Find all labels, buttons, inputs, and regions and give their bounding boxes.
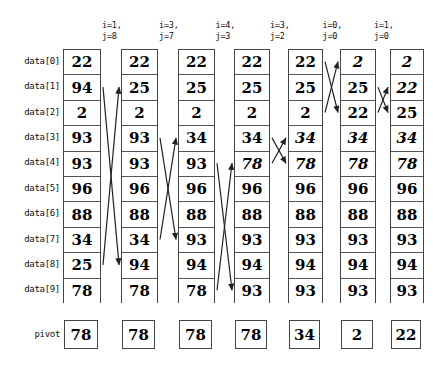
array-cell: 93 [289, 228, 322, 253]
step-header-2: i=3,j=7 [159, 20, 179, 42]
array-cell: 93 [391, 279, 423, 304]
array-cell: 22 [64, 50, 100, 75]
row-label-6: data[6] [8, 208, 60, 218]
step-header-5: i=0,j=0 [323, 20, 343, 42]
swap-arrow [103, 87, 119, 265]
array-cell: 78 [179, 279, 214, 304]
swap-arrow [325, 62, 338, 113]
array-cell: 93 [341, 279, 375, 304]
step-header-i: i=1, [102, 20, 122, 30]
array-cell: 22 [179, 50, 214, 75]
array-cell: 78 [64, 279, 100, 304]
array-cell: 93 [391, 228, 423, 253]
array-cell: 94 [391, 253, 423, 278]
array-cell: 94 [64, 75, 100, 100]
pivot-box-4: 78 [235, 320, 267, 349]
array-cell: 93 [179, 152, 214, 177]
array-cell: 22 [391, 75, 423, 100]
array-cell: 93 [289, 279, 322, 304]
step-header-1: i=1,j=8 [102, 20, 122, 42]
step-header-i: i=0, [323, 20, 343, 30]
step-header-4: i=3,j=2 [270, 20, 290, 42]
swap-arrow [378, 87, 388, 112]
step-header-i: i=4, [216, 20, 236, 30]
array-cell: 94 [122, 253, 157, 278]
array-cell: 88 [391, 202, 423, 227]
swap-arrow [103, 87, 119, 265]
array-cell: 25 [289, 75, 322, 100]
array-cell: 94 [289, 253, 322, 278]
row-label-2: data[2] [8, 107, 60, 117]
array-cell: 25 [122, 75, 157, 100]
array-cell: 88 [289, 202, 322, 227]
array-cell: 94 [235, 253, 269, 278]
array-cell: 34 [289, 126, 322, 151]
array-column-7: 2222534789688939493 [390, 49, 424, 303]
array-column-6: 2252234789688939493 [340, 49, 376, 303]
array-cell: 25 [235, 75, 269, 100]
sorting-trace-diagram: i=1,j=8i=3,j=7i=4,j=3i=3,j=2i=0,j=0i=1,j… [0, 0, 433, 366]
array-cell: 22 [122, 50, 157, 75]
row-label-5: data[5] [8, 183, 60, 193]
array-cell: 78 [289, 152, 322, 177]
array-cell: 2 [235, 101, 269, 126]
array-cell: 22 [235, 50, 269, 75]
array-cell: 93 [122, 126, 157, 151]
array-column-1: 2294293939688342578 [63, 49, 101, 303]
step-header-3: i=4,j=3 [216, 20, 236, 42]
array-cell: 25 [391, 101, 423, 126]
array-cell: 25 [179, 75, 214, 100]
pivot-box-7: 22 [391, 320, 421, 349]
array-cell: 94 [179, 253, 214, 278]
swap-arrow [160, 138, 176, 240]
row-label-8: data[8] [8, 259, 60, 269]
pivot-box-3: 78 [179, 320, 212, 349]
step-header-i: i=3, [159, 20, 179, 30]
array-cell: 34 [122, 228, 157, 253]
pivot-box-5: 34 [289, 320, 320, 349]
pivot-row-label: pivot [8, 329, 60, 339]
step-header-6: i=1,j=0 [374, 20, 394, 42]
array-cell: 88 [341, 202, 375, 227]
array-column-4: 2225234789688939493 [234, 49, 270, 303]
array-cell: 93 [341, 228, 375, 253]
swap-arrow [160, 138, 176, 240]
row-label-3: data[3] [8, 132, 60, 142]
swap-arrow [272, 138, 286, 163]
array-cell: 93 [179, 228, 214, 253]
pivot-box-6: 2 [341, 320, 373, 349]
array-cell: 88 [64, 202, 100, 227]
row-label-0: data[0] [8, 56, 60, 66]
swap-arrow [217, 163, 232, 290]
array-cell: 34 [235, 126, 269, 151]
swap-arrow [378, 87, 388, 112]
array-cell: 2 [341, 50, 375, 75]
array-cell: 2 [391, 50, 423, 75]
array-cell: 93 [64, 126, 100, 151]
step-header-i: i=1, [374, 20, 394, 30]
swap-arrow [272, 138, 286, 163]
pivot-box-1: 78 [64, 320, 98, 349]
array-cell: 78 [341, 152, 375, 177]
step-header-j: j=3 [216, 31, 231, 41]
array-cell: 22 [289, 50, 322, 75]
array-cell: 88 [235, 202, 269, 227]
array-cell: 22 [341, 101, 375, 126]
array-cell: 2 [122, 101, 157, 126]
step-header-j: j=2 [270, 31, 285, 41]
swap-arrow [217, 163, 232, 290]
array-cell: 78 [122, 279, 157, 304]
row-label-4: data[4] [8, 157, 60, 167]
array-cell: 96 [64, 177, 100, 202]
array-cell: 93 [64, 152, 100, 177]
swap-arrow [325, 62, 338, 113]
array-cell: 25 [64, 253, 100, 278]
array-cell: 88 [179, 202, 214, 227]
array-cell: 96 [391, 177, 423, 202]
array-cell: 2 [64, 101, 100, 126]
step-header-j: j=0 [323, 31, 338, 41]
step-header-j: j=7 [159, 31, 174, 41]
array-cell: 34 [391, 126, 423, 151]
array-cell: 96 [179, 177, 214, 202]
array-cell: 93 [235, 228, 269, 253]
